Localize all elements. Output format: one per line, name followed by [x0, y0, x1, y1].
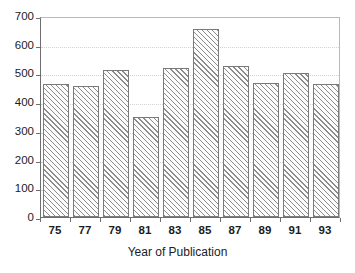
- y-axis-tick-label: 600: [15, 40, 34, 52]
- x-axis-tick: [40, 218, 41, 222]
- x-axis-tick-label: 89: [259, 224, 272, 237]
- bar: [253, 83, 279, 217]
- gridline: [41, 47, 339, 48]
- bar: [163, 68, 189, 217]
- x-axis-tick-label: 93: [319, 224, 332, 237]
- y-axis-tick: [36, 162, 41, 163]
- x-axis-tick: [250, 218, 251, 222]
- y-axis-tick-label: 500: [15, 69, 34, 81]
- x-axis-tick: [220, 218, 221, 222]
- bar: [73, 86, 99, 217]
- y-axis-tick-label: 700: [15, 11, 34, 23]
- y-axis-tick: [36, 18, 41, 19]
- x-axis-title: Year of Publication: [0, 246, 355, 259]
- x-axis-tick: [310, 218, 311, 222]
- y-axis-tick: [36, 47, 41, 48]
- y-axis-tick: [36, 104, 41, 105]
- x-axis-tick: [100, 218, 101, 222]
- x-axis-tick: [280, 218, 281, 222]
- bar: [283, 73, 309, 217]
- x-axis-tick-label: 75: [49, 224, 62, 237]
- x-axis-tick-label: 77: [79, 224, 92, 237]
- bar: [103, 70, 129, 217]
- bar: [133, 117, 159, 218]
- x-axis-tick-label: 83: [169, 224, 182, 237]
- x-axis-tick-label: 87: [229, 224, 242, 237]
- x-axis-tick-label: 91: [289, 224, 302, 237]
- x-axis-tick: [70, 218, 71, 222]
- y-axis-tick-label: 100: [15, 184, 34, 196]
- y-axis-tick: [36, 133, 41, 134]
- y-axis-tick-label: 200: [15, 155, 34, 167]
- x-axis-tick: [160, 218, 161, 222]
- x-axis-labels: 75777981838587899193: [40, 224, 340, 240]
- x-axis-tick: [340, 218, 341, 222]
- y-axis-labels: 0100200300400500600700: [0, 17, 34, 218]
- y-axis-tick-label: 0: [28, 212, 34, 224]
- x-axis-tick-label: 81: [139, 224, 152, 237]
- y-axis-tick-label: 400: [15, 97, 34, 109]
- y-axis-tick: [36, 190, 41, 191]
- bar-chart: 0100200300400500600700 75777981838587899…: [0, 0, 355, 273]
- x-axis-tick-label: 79: [109, 224, 122, 237]
- x-axis-tick-label: 85: [199, 224, 212, 237]
- y-axis-tick-label: 300: [15, 126, 34, 138]
- bar: [43, 84, 69, 217]
- y-axis-tick: [36, 75, 41, 76]
- bar: [313, 84, 339, 217]
- x-axis-tick: [130, 218, 131, 222]
- bar: [223, 66, 249, 217]
- x-axis-tick: [190, 218, 191, 222]
- plot-area: [40, 17, 340, 218]
- bar: [193, 29, 219, 217]
